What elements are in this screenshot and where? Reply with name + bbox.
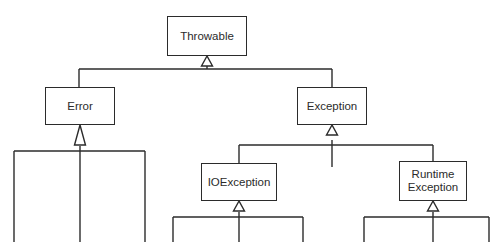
edge-group-ioexception-children-truncated [173, 201, 303, 242]
class-hierarchy-diagram: Throwable Error Exception IOException Ru… [0, 0, 502, 242]
class-box-runtimeexception[interactable]: Runtime Exception [399, 161, 467, 201]
class-label-runtimeexception: Runtime Exception [405, 168, 462, 194]
generalization-arrow-to-error [75, 125, 86, 145]
class-label-ioexception: IOException [205, 176, 274, 189]
class-box-ioexception[interactable]: IOException [201, 163, 277, 201]
class-label-error: Error [64, 100, 96, 113]
edge-group-error-children-truncated [14, 125, 145, 242]
generalization-arrow-to-ioexception [234, 201, 245, 211]
edge-group-throwable-children [79, 56, 332, 87]
class-label-throwable: Throwable [177, 30, 237, 43]
class-box-exception[interactable]: Exception [297, 87, 367, 125]
generalization-arrow-to-throwable [202, 56, 213, 66]
edge-group-runtimeexception-children-truncated [364, 201, 489, 242]
generalization-arrow-to-runtimeexception [428, 201, 439, 211]
class-box-error[interactable]: Error [45, 87, 115, 125]
class-box-throwable[interactable]: Throwable [167, 16, 247, 56]
class-label-exception: Exception [304, 100, 361, 113]
generalization-arrow-to-exception [327, 125, 338, 135]
